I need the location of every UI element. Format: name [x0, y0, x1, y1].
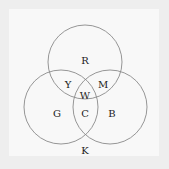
label-b: B	[108, 108, 115, 119]
venn-diagram: R Y M W G C B K	[0, 0, 169, 169]
label-y: Y	[64, 79, 72, 90]
label-g: G	[53, 108, 61, 119]
label-c: C	[81, 108, 89, 119]
label-r: R	[81, 55, 89, 66]
label-w: W	[80, 90, 91, 101]
label-m: M	[98, 79, 108, 90]
label-k: K	[81, 145, 89, 156]
